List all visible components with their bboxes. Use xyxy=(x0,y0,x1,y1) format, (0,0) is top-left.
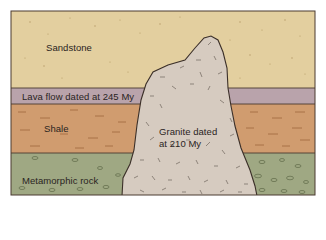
shale-label: Shale xyxy=(44,123,69,134)
metamorphic-rock-label: Metamorphic rock xyxy=(22,175,98,186)
sandstone-label: Sandstone xyxy=(46,42,92,53)
lava-flow-label: Lava flow dated at 245 My xyxy=(22,91,134,102)
granite-label-line1: Granite dated xyxy=(159,126,217,137)
granite-label-line2: at 210 My xyxy=(159,138,201,149)
